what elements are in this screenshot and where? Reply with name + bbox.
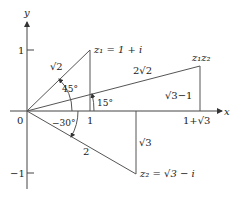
origin-label: 0: [17, 115, 23, 126]
z1-label: z₁ = 1 + i: [93, 44, 142, 55]
y-tick-1-label: 1: [18, 45, 24, 56]
x-tick-1-label: 1: [87, 115, 93, 126]
angle-neg30-label: −30°: [52, 118, 76, 128]
product-imag-label: √3−1: [165, 90, 192, 101]
z1z2-label: z₁z₂: [191, 52, 211, 63]
angle-45-label: 45°: [62, 84, 78, 94]
x-product-label: 1+√3: [183, 115, 210, 126]
angle-arc-15: [92, 94, 94, 111]
y-tick-neg1-label: −1: [10, 168, 25, 179]
complex-plane-diagram: y x 0 1 −1 1 1+√3 z₁ = 1 + i z₁z₂ z₂ = √…: [0, 0, 240, 203]
z2-label: z₂ = √3 − i: [139, 168, 195, 179]
z1-vector: [27, 50, 90, 111]
product-vector: [27, 66, 200, 111]
z2-vector: [27, 111, 136, 174]
product-modulus-label: 2√2: [133, 65, 152, 76]
z2-imag-label: √3: [139, 137, 152, 148]
z2-modulus-label: 2: [83, 146, 89, 157]
angle-15-label: 15°: [97, 98, 113, 108]
z1-modulus-label: √2: [50, 61, 63, 72]
x-axis-label: x: [224, 106, 230, 117]
y-axis-label: y: [23, 7, 30, 18]
